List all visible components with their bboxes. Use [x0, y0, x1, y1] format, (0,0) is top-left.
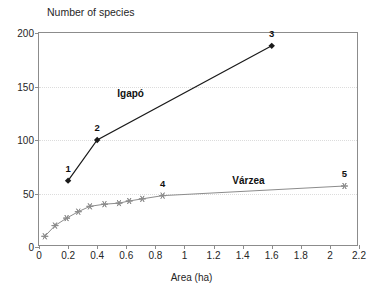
data-point-label: 1	[65, 163, 70, 174]
y-axis-tick-label: 50	[23, 188, 34, 199]
x-axis-tick-label: 1.8	[294, 250, 308, 261]
data-point-label: 5	[342, 168, 347, 179]
series-name-label: Várzea	[232, 174, 264, 185]
x-axis-tick-label: 1.6	[265, 250, 279, 261]
data-point-label: 2	[95, 122, 100, 133]
y-axis-tick-label: 100	[17, 135, 34, 146]
series-line	[68, 46, 272, 181]
series-layer	[39, 33, 359, 247]
x-axis-tick-mark	[359, 245, 360, 249]
data-point-marker	[139, 196, 146, 202]
x-axis-tick-label: 1	[182, 250, 188, 261]
x-axis-tick-label: 1.2	[207, 250, 221, 261]
y-axis-tick-label: 0	[28, 242, 34, 253]
x-axis-tick-label: 0	[36, 250, 42, 261]
x-axis-tick-label: 2	[327, 250, 333, 261]
y-axis-tick-label: 150	[17, 81, 34, 92]
data-point-label: 4	[160, 178, 165, 189]
species-area-chart: Number of species 050100150200 00.20.40.…	[0, 0, 383, 293]
x-axis-tick-label: 2.2	[352, 250, 366, 261]
x-axis-tick-label: 0.4	[90, 250, 104, 261]
data-point-marker	[341, 183, 348, 189]
x-axis-title: Area (ha)	[0, 272, 383, 283]
data-point-marker	[101, 201, 108, 207]
data-point-marker	[116, 200, 123, 206]
data-point-label: 3	[269, 28, 274, 39]
data-point-marker	[87, 203, 94, 209]
data-point-marker	[75, 209, 82, 215]
data-point-marker	[269, 43, 275, 49]
x-axis-tick-label: 0.8	[148, 250, 162, 261]
series-name-label: Igapó	[117, 87, 144, 98]
x-axis-tick-label: 0.2	[61, 250, 75, 261]
data-point-marker	[159, 193, 166, 199]
series-line	[45, 186, 345, 236]
plot-area: 050100150200 00.20.40.60.811.21.41.61.82…	[38, 32, 358, 246]
x-axis-tick-label: 0.6	[119, 250, 133, 261]
y-axis-tick-label: 200	[17, 28, 34, 39]
x-axis-tick-label: 1.4	[236, 250, 250, 261]
y-axis-title: Number of species	[47, 6, 135, 18]
data-point-marker	[126, 198, 133, 204]
